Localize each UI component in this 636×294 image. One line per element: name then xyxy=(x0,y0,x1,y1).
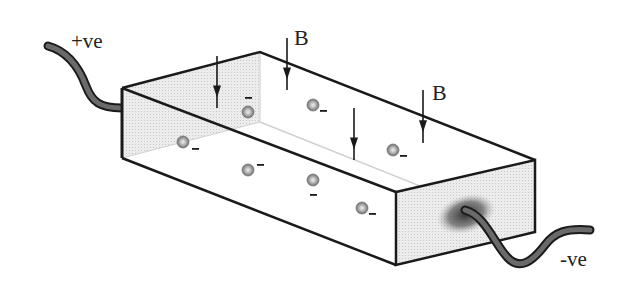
positive-terminal-label: +ve xyxy=(71,29,103,53)
magnetic-field-label-1: B xyxy=(294,25,309,50)
electron-icon xyxy=(387,144,399,156)
negative-charge-sign xyxy=(245,97,252,99)
back-left-face xyxy=(122,52,260,158)
electron-icon xyxy=(307,174,319,186)
magnetic-field-label-2: B xyxy=(432,80,447,105)
positive-wire xyxy=(48,46,122,108)
negative-charge-sign xyxy=(192,148,199,150)
negative-charge-sign xyxy=(310,194,317,196)
electron-icon xyxy=(242,164,254,176)
arrow-down-icon xyxy=(419,120,427,132)
negative-charge-sign xyxy=(320,110,327,112)
hall-effect-diagram: +ve -ve B B xyxy=(0,0,636,294)
negative-charge-sign xyxy=(400,155,407,157)
negative-terminal-label: -ve xyxy=(560,247,587,271)
electron-icon xyxy=(242,106,254,118)
negative-charge-sign xyxy=(257,164,264,166)
electron-icon xyxy=(177,136,189,148)
electron-icon xyxy=(356,202,368,214)
arrow-down-icon xyxy=(283,67,291,79)
electron-icon xyxy=(307,99,319,111)
negative-charge-sign xyxy=(369,213,376,215)
arrow-down-icon xyxy=(350,137,358,149)
